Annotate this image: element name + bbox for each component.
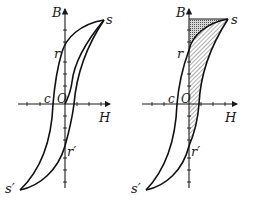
coercivity-label: c	[44, 92, 51, 106]
remanence-neg-label: r′	[67, 144, 76, 159]
right-panel: B H s r c O r′ s′	[131, 5, 238, 196]
saturation-pos-label: s	[106, 12, 113, 27]
b-axis-label: B	[175, 5, 186, 20]
h-axis-label: H	[98, 110, 111, 125]
saturation-neg-label: s′	[5, 181, 15, 196]
left-panel: B H s r c O r′ s′	[5, 5, 113, 196]
remanence-pos-label: r	[54, 46, 61, 61]
coercivity-label: c	[168, 92, 175, 106]
b-axis-label: B	[51, 5, 62, 20]
remanence-neg-label: r′	[191, 144, 200, 159]
remanence-pos-label: r	[177, 46, 184, 61]
initial-curve	[65, 20, 104, 104]
saturation-pos-label: s	[231, 12, 238, 27]
saturation-neg-label: s′	[131, 181, 141, 196]
hysteresis-figure: B H s r c O r′ s′	[0, 0, 254, 202]
origin-label: O	[181, 92, 191, 106]
origin-label: O	[57, 92, 67, 106]
h-axis-label: H	[224, 110, 237, 125]
